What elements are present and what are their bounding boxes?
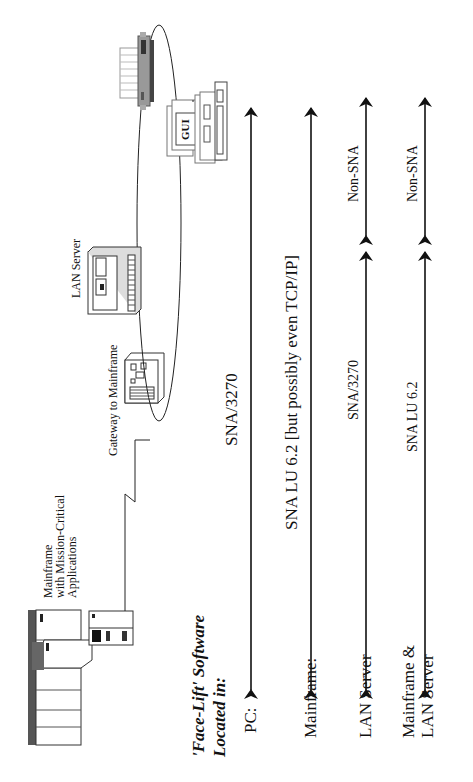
row-both-location: Mainframe & LAN Server — [400, 645, 436, 738]
row-both-location-line1: Mainframe & — [400, 645, 417, 738]
row-lanserver-protocol-left: SNA/3270 — [347, 360, 361, 420]
mainframe-icon — [28, 610, 133, 745]
mainframe-label: Mainframe with Mission-Critical Applicat… — [42, 495, 78, 598]
legend-title: 'Face-Lift' Software Located in: — [190, 615, 228, 757]
row-mainframe-location: Mainframe: — [302, 658, 319, 738]
row-both-protocol-left: SNA LU 6.2 — [406, 382, 420, 452]
row-lanserver-protocol-right: Non-SNA — [347, 145, 361, 202]
lan-server-label: LAN Server — [70, 239, 82, 298]
gui-screen-label: GUI — [180, 119, 191, 140]
row-mainframe-protocol: SNA LU 6.2 [but possibly even TCP/IP] — [283, 255, 300, 530]
legend-title-line2: Located in: — [211, 615, 228, 757]
legend-title-line1: 'Face-Lift' Software — [190, 615, 207, 757]
row-both-location-line2: LAN Server — [419, 645, 436, 738]
lan-server-icon — [88, 247, 141, 314]
printer-icon — [120, 32, 154, 110]
mainframe-label-line: Applications — [66, 495, 78, 598]
wan-link-line — [125, 440, 150, 611]
row-lanserver-location: LAN Server — [357, 654, 374, 738]
gateway-icon — [125, 353, 164, 403]
gateway-label: Gateway to Mainframe — [107, 345, 119, 456]
row-pc-protocol: SNA/3270 — [223, 373, 240, 446]
row-both-protocol-right: Non-SNA — [406, 145, 420, 202]
row-pc-location: PC: — [242, 707, 259, 733]
